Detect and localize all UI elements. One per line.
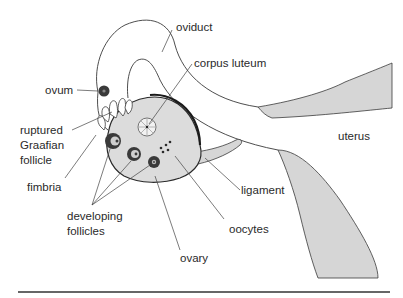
ligament-shape [196, 139, 242, 164]
label-uterus: uterus [338, 130, 370, 142]
label-follicle: follicle [20, 154, 52, 166]
label-follicles: follicles [67, 225, 105, 237]
corpus-luteum-icon [138, 118, 156, 136]
label-fimbria: fimbria [27, 181, 62, 193]
label-graafian: Graafian [20, 139, 64, 151]
label-ruptured: ruptured [20, 124, 63, 136]
ovum-icon [99, 86, 110, 97]
reproductive-diagram: oviduct corpus luteum ovum ruptured Graa… [0, 0, 403, 298]
label-ligament: ligament [241, 184, 285, 196]
label-oviduct: oviduct [176, 21, 213, 33]
label-oocytes: oocytes [229, 223, 269, 235]
label-ovum: ovum [45, 84, 73, 96]
label-corpus-luteum: corpus luteum [194, 57, 266, 69]
uterus-shape [258, 63, 392, 278]
label-developing: developing [67, 210, 123, 222]
label-ovary: ovary [180, 252, 208, 264]
